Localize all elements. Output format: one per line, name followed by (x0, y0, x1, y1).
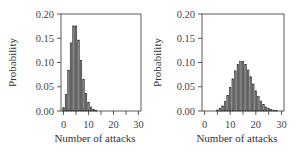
bar (265, 107, 267, 111)
x-tick-label: 0 (61, 119, 66, 130)
x-axis-label: Number of attacks (54, 132, 135, 144)
bar (240, 61, 242, 111)
bar (85, 93, 87, 111)
bar (258, 97, 260, 112)
bar (73, 26, 75, 111)
bar (78, 40, 80, 111)
y-tick-label: 0.00 (177, 106, 195, 117)
bar (263, 105, 265, 111)
y-tick-label: 0.20 (36, 9, 54, 20)
bar (247, 70, 249, 111)
y-tick-label: 0.10 (36, 57, 54, 68)
left-chart-panel: 0.000.050.100.150.20Probability0102030Nu… (6, 9, 144, 145)
x-tick-label: 30 (133, 119, 144, 130)
y-tick-label: 0.20 (177, 9, 195, 20)
right-chart-panel: 0.000.050.100.150.20Probability0102030Nu… (151, 9, 287, 145)
bar (90, 107, 92, 111)
x-tick-label: 20 (251, 119, 262, 130)
figure: 0.000.050.100.150.20Probability0102030Nu… (0, 0, 299, 157)
bar (229, 87, 231, 111)
x-tick-label: 0 (202, 119, 207, 130)
bar (83, 79, 85, 111)
bar (65, 95, 67, 111)
y-tick-label: 0.15 (177, 33, 195, 44)
y-axis: 0.000.050.100.150.20Probability (6, 9, 61, 117)
y-tick-label: 0.00 (36, 106, 54, 117)
bar (252, 84, 254, 111)
bar (224, 102, 226, 111)
bars (63, 26, 97, 111)
bars (217, 61, 278, 111)
bar (63, 108, 65, 111)
x-axis-label: Number of attacks (196, 132, 277, 144)
x-axis: 0102030Number of attacks (196, 111, 286, 144)
bar (232, 79, 234, 111)
bar (237, 65, 239, 111)
bar (75, 26, 77, 111)
x-tick-label: 10 (225, 119, 236, 130)
bar (245, 64, 247, 111)
y-axis: 0.000.050.100.150.20Probability (151, 9, 202, 117)
bar (250, 77, 252, 111)
y-tick-label: 0.05 (36, 81, 54, 92)
y-tick-label: 0.10 (177, 57, 195, 68)
bar (255, 91, 257, 111)
x-tick-label: 30 (276, 119, 287, 130)
x-tick-label: 20 (108, 119, 119, 130)
bar (242, 61, 244, 111)
bar (68, 70, 70, 111)
bar (88, 102, 90, 111)
bar (80, 60, 82, 111)
bar (235, 71, 237, 111)
x-axis: 0102030Number of attacks (54, 111, 143, 144)
bar (70, 43, 72, 111)
bar (227, 95, 229, 111)
bar (222, 106, 224, 111)
y-tick-label: 0.05 (177, 81, 195, 92)
y-axis-label: Probability (6, 38, 18, 87)
y-tick-label: 0.15 (36, 33, 54, 44)
bar (260, 101, 262, 111)
x-tick-label: 10 (83, 119, 94, 130)
y-axis-label: Probability (151, 38, 163, 87)
